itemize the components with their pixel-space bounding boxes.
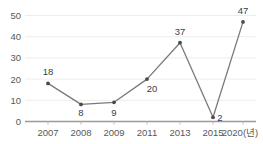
y-axis-tick-label: 50	[10, 10, 21, 21]
chart-canvas: 50 40 30 20 10 0 18	[0, 0, 263, 144]
x-axis-tick-label: 2008	[70, 127, 91, 138]
x-axis-tick-label: 2007	[37, 127, 58, 138]
data-label: 8	[78, 107, 83, 118]
data-point-marker[interactable]	[178, 41, 182, 45]
data-point-marker[interactable]	[79, 103, 83, 107]
x-axis-tick-label: 2011	[137, 127, 157, 138]
data-point-marker[interactable]	[241, 20, 245, 24]
y-axis-tick-label: 30	[10, 52, 21, 63]
x-axis-tick-label: 2020(년)	[222, 127, 258, 138]
data-point-marker[interactable]	[211, 115, 215, 119]
data-label: 2	[217, 112, 222, 123]
line-chart: 50 40 30 20 10 0 18	[0, 0, 263, 144]
y-axis-tick-label: 20	[10, 74, 21, 85]
y-axis-tick-label: 10	[10, 95, 21, 106]
x-axis-tick-label: 2013	[169, 127, 190, 138]
data-point-marker[interactable]	[46, 82, 50, 86]
data-point-marker[interactable]	[145, 77, 149, 81]
y-axis-tick-label: 0	[16, 116, 21, 127]
chart-background	[0, 0, 263, 144]
data-label: 18	[43, 66, 54, 77]
x-axis-tick-labels: 2007 2008 2009 2011 2013 2015 2020(년)	[37, 127, 258, 138]
data-label: 9	[111, 107, 116, 118]
x-axis-tick-label: 2015	[202, 127, 223, 138]
data-label: 47	[238, 5, 249, 16]
data-label: 20	[147, 83, 158, 94]
x-axis-tick-label: 2009	[103, 127, 124, 138]
data-label: 37	[175, 26, 186, 37]
data-point-marker[interactable]	[112, 100, 116, 104]
y-axis-tick-label: 40	[10, 31, 21, 42]
